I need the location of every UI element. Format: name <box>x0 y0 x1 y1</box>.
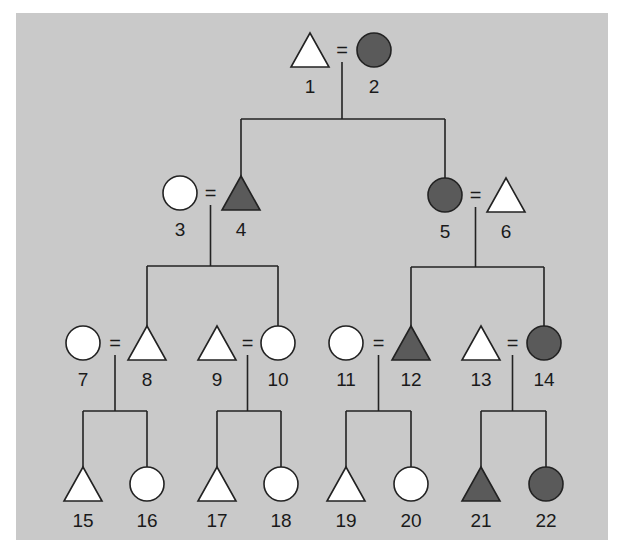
female-circle-icon <box>130 467 164 501</box>
individual-label: 21 <box>470 510 491 531</box>
individual-label: 4 <box>236 219 247 240</box>
marriage-symbol: = <box>507 332 519 354</box>
marriage-symbol: = <box>109 332 121 354</box>
marriage-symbol: = <box>336 39 348 61</box>
individual-label: 16 <box>136 510 157 531</box>
female-circle-icon <box>394 467 428 501</box>
individual-label: 2 <box>369 76 380 97</box>
individual-label: 17 <box>206 510 227 531</box>
individual-label: 12 <box>400 369 421 390</box>
female-circle-icon <box>66 326 100 360</box>
individual-label: 1 <box>305 76 316 97</box>
individual-label: 20 <box>400 510 421 531</box>
female-circle-icon <box>264 467 298 501</box>
pedigree-diagram: ======= 12345678910111213141516171819202… <box>0 0 628 553</box>
marriage-symbol: = <box>205 182 217 204</box>
female-circle-icon <box>163 176 197 210</box>
individual-label: 8 <box>142 369 153 390</box>
individual-label: 18 <box>270 510 291 531</box>
affected-female-circle-icon <box>529 467 563 501</box>
marriage-symbol: = <box>470 184 482 206</box>
female-circle-icon <box>261 326 295 360</box>
affected-female-circle-icon <box>357 33 391 67</box>
individual-label: 5 <box>440 221 451 242</box>
individual-label: 9 <box>212 369 223 390</box>
female-circle-icon <box>329 326 363 360</box>
individual-label: 22 <box>535 510 556 531</box>
marriage-symbol: = <box>373 332 385 354</box>
individual-label: 10 <box>267 369 288 390</box>
individual-label: 11 <box>336 369 356 390</box>
individual-label: 13 <box>470 369 491 390</box>
marriage-symbol: = <box>242 332 254 354</box>
affected-female-circle-icon <box>428 178 462 212</box>
individual-label: 7 <box>78 369 89 390</box>
individual-label: 3 <box>175 219 186 240</box>
individual-label: 15 <box>72 510 93 531</box>
individual-label: 6 <box>501 221 512 242</box>
individual-label: 14 <box>533 369 555 390</box>
individual-label: 19 <box>335 510 356 531</box>
affected-female-circle-icon <box>527 326 561 360</box>
